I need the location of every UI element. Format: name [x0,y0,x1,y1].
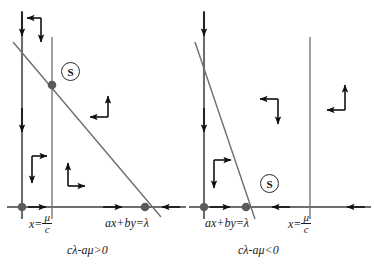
right-vertical-nullcline-fraction: μc [301,212,311,235]
left-vertical-nullcline-lhs: x= [29,217,42,232]
left-saddle-node [48,81,57,90]
left-vector-lower-left [32,156,47,183]
left-vector-lower-mid [68,163,85,186]
right-saddle-node [242,203,251,212]
left-equilibrium-points [18,81,149,212]
left-vertical-nullcline-numerator: μ [42,212,52,223]
left-saddle-badge-label: S [67,66,73,78]
left-panel [7,11,186,219]
right-vector-far-right [327,85,345,110]
left-vector-mid-right [90,96,108,117]
left-direction-field [22,12,180,207]
right-panel [189,11,371,219]
phase-plane-canvas [0,0,374,269]
left-vertical-nullcline-denominator: c [42,223,52,235]
right-vertical-nullcline-numerator: μ [301,212,311,223]
left-panel-caption: cλ-aμ>0 [67,243,108,258]
left-slant-nullcline [13,42,161,217]
right-slant-nullcline-label: ax+by=λ [205,216,249,231]
right-origin-node [200,203,208,211]
left-origin-node [18,203,26,211]
right-vector-mid [260,99,278,124]
left-vertical-nullcline-fraction: μc [42,212,52,235]
left-saddle-badge: S [61,62,80,81]
figure-phase-planes: S S x=μc ax+by=λ cλ-aμ>0 ax+by=λ x=μc cλ… [0,0,374,269]
right-vertical-nullcline-denominator: c [301,223,311,235]
left-loci [7,11,186,219]
right-vector-lower-left [214,160,231,188]
left-vertical-nullcline-label: x=μc [29,213,52,236]
right-vertical-nullcline-lhs: x= [288,217,301,232]
left-slant-nullcline-label: ax+by=λ [105,216,149,231]
right-direction-field [204,12,365,207]
right-saddle-badge: S [260,174,279,193]
left-vector-top-left [27,18,41,42]
right-loci [189,11,371,219]
right-panel-caption: cλ-aμ<0 [238,243,279,258]
right-vertical-nullcline-label: x=μc [288,213,311,236]
right-saddle-badge-label: S [266,178,272,190]
left-axis-node [141,203,150,212]
